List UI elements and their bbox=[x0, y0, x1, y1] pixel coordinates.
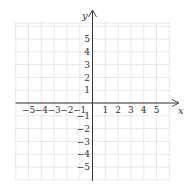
y-tick-label: 2 bbox=[84, 73, 90, 83]
x-tick-label: −4 bbox=[35, 105, 49, 115]
y-tick-label: −3 bbox=[77, 137, 91, 147]
y-tick-label: 4 bbox=[84, 47, 90, 57]
x-tick-labels: −5−4−3−2−112345 bbox=[22, 105, 160, 115]
x-tick-label: −2 bbox=[60, 105, 73, 115]
x-tick-label: 5 bbox=[154, 105, 160, 115]
y-tick-label: −1 bbox=[77, 111, 90, 121]
x-tick-label: 4 bbox=[141, 105, 147, 115]
y-tick-label: −2 bbox=[77, 124, 90, 134]
x-tick-label: −3 bbox=[47, 105, 61, 115]
y-tick-label: −4 bbox=[77, 149, 91, 159]
x-tick-label: 1 bbox=[102, 105, 108, 115]
x-tick-label: 2 bbox=[115, 105, 121, 115]
coordinate-plane: −5−4−3−2−112345 54321−1−2−3−4−5 x y bbox=[0, 0, 194, 187]
x-tick-label: −5 bbox=[22, 105, 36, 115]
x-axis-label: x bbox=[178, 105, 184, 116]
y-tick-label: 3 bbox=[84, 60, 90, 70]
y-axis-label: y bbox=[81, 10, 88, 21]
y-tick-label: −5 bbox=[77, 162, 91, 172]
y-tick-label: 1 bbox=[84, 85, 90, 95]
axes bbox=[16, 10, 179, 181]
y-tick-label: 5 bbox=[84, 34, 90, 44]
x-tick-label: 3 bbox=[128, 105, 134, 115]
